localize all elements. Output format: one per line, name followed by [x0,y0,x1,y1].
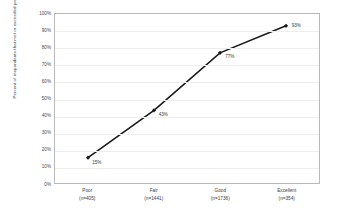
data-point-marker [284,24,288,28]
y-axis-title: Percent of respondents that met or excee… [9,0,21,109]
line-chart: Percent of respondents that met or excee… [0,0,337,216]
gridline [55,168,319,169]
data-point-label: 43% [159,112,168,117]
y-axis-tick-label: 70% [26,62,51,67]
x-axis-tick-label: Poor(n=405) [52,187,122,202]
gridline [55,117,319,118]
gridline [55,48,319,49]
x-axis-tick-label: Excellent(n=354) [252,187,322,202]
series-line [88,26,286,158]
gridline [55,100,319,101]
y-axis-tick-label: 30% [26,130,51,135]
x-axis-category-name: Good [185,187,255,195]
x-axis-category-name: Excellent [252,187,322,195]
data-point-label: 15% [92,160,101,165]
y-axis-tick-label: 10% [26,164,51,169]
data-point-label: 77% [225,54,234,59]
x-axis-category-name: Poor [52,187,122,195]
plot-area: 15%43%77%93% [54,13,320,184]
x-axis-category-count: (n=1736) [185,195,255,203]
y-axis-tick-label: 60% [26,79,51,84]
y-axis-tick-labels: 0%10%20%30%40%50%60%70%80%90%100% [26,13,51,184]
series-line-svg [55,14,319,183]
y-axis-tick-label: 80% [26,45,51,50]
x-axis-tick-label: Good(n=1736) [185,187,255,202]
gridline [55,65,319,66]
gridline [55,151,319,152]
y-axis-tick-label: 90% [26,28,51,33]
y-axis-tick-label: 20% [26,147,51,152]
gridline [55,134,319,135]
x-axis-category-name: Fair [119,187,189,195]
y-axis-tick-label: 50% [26,96,51,101]
x-axis-category-count: (n=1441) [119,195,189,203]
y-axis-tick-label: 40% [26,113,51,118]
gridline [55,82,319,83]
x-axis-tick-label: Fair(n=1441) [119,187,189,202]
data-point-label: 93% [292,23,301,28]
x-axis-tick-labels: Poor(n=405)Fair(n=1441)Good(n=1736)Excel… [54,187,320,211]
gridline [55,31,319,32]
y-axis-tick-label: 0% [26,182,51,187]
x-axis-category-count: (n=405) [52,195,122,203]
y-axis-tick-label: 100% [26,11,51,16]
x-axis-category-count: (n=354) [252,195,322,203]
